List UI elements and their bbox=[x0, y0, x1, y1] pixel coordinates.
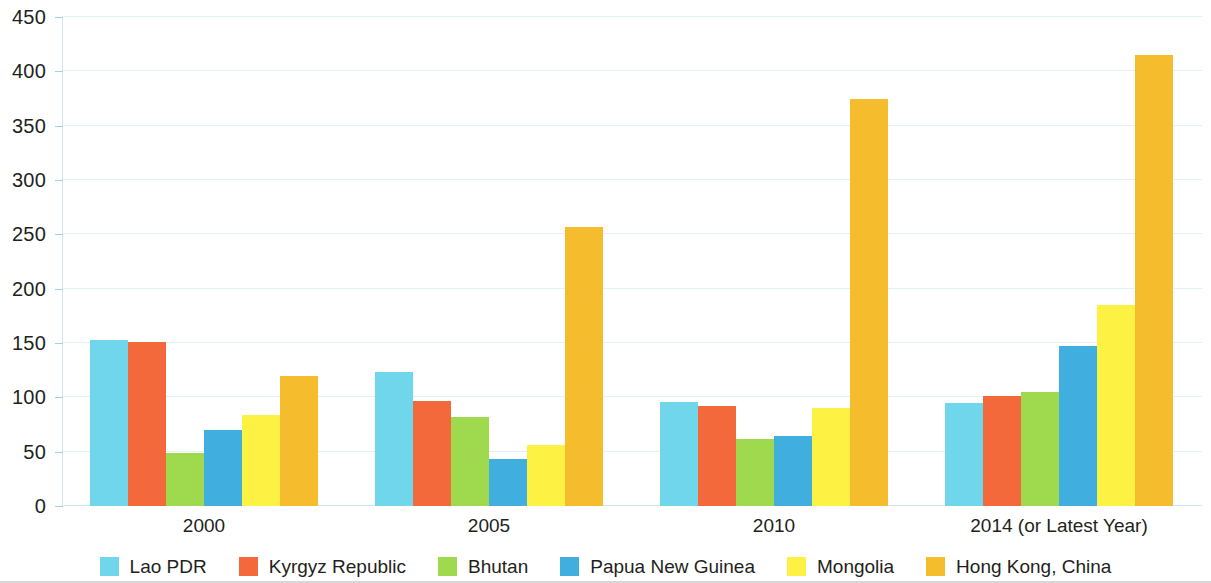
bar bbox=[451, 417, 489, 506]
y-tick-label: 50 bbox=[2, 442, 46, 462]
y-tick-label: 350 bbox=[2, 116, 46, 136]
bar bbox=[660, 402, 698, 506]
y-tick-0 bbox=[55, 506, 63, 507]
x-tick-label: 2014 (or Latest Year) bbox=[909, 515, 1209, 537]
legend-swatch-icon bbox=[239, 557, 258, 576]
bar bbox=[128, 342, 166, 506]
y-tick-label: 450 bbox=[2, 7, 46, 27]
bar bbox=[1097, 305, 1135, 506]
bar-chart: 050100150200250300350400450 200020052010… bbox=[0, 0, 1211, 583]
y-tick-label: 0 bbox=[2, 496, 46, 516]
legend-item[interactable]: Papua New Guinea bbox=[560, 556, 755, 577]
legend-swatch-icon bbox=[438, 557, 457, 576]
bar bbox=[1135, 55, 1173, 506]
legend-label: Papua New Guinea bbox=[590, 556, 755, 577]
y-tick-label: 300 bbox=[2, 170, 46, 190]
legend-label: Mongolia bbox=[817, 556, 894, 577]
legend-item[interactable]: Bhutan bbox=[438, 556, 528, 577]
bar bbox=[413, 401, 451, 506]
bar-group bbox=[945, 17, 1173, 506]
bar-group bbox=[660, 17, 888, 506]
x-tick-label: 2000 bbox=[54, 515, 354, 537]
bar-group bbox=[90, 17, 318, 506]
legend-swatch-icon bbox=[787, 557, 806, 576]
bar bbox=[90, 340, 128, 506]
bar bbox=[204, 430, 242, 506]
bar bbox=[489, 459, 527, 506]
legend-item[interactable]: Hong Kong, China bbox=[926, 556, 1111, 577]
bar bbox=[812, 408, 850, 506]
bar bbox=[698, 406, 736, 506]
bar bbox=[166, 453, 204, 506]
bar bbox=[736, 439, 774, 506]
legend-label: Kyrgyz Republic bbox=[269, 556, 406, 577]
legend-label: Bhutan bbox=[468, 556, 528, 577]
bar bbox=[527, 445, 565, 506]
y-tick-label: 250 bbox=[2, 224, 46, 244]
bar bbox=[565, 227, 603, 506]
bar bbox=[280, 376, 318, 506]
legend-swatch-icon bbox=[926, 557, 945, 576]
bar-group bbox=[375, 17, 603, 506]
x-tick-label: 2005 bbox=[339, 515, 639, 537]
bar bbox=[850, 99, 888, 507]
legend-label: Hong Kong, China bbox=[956, 556, 1111, 577]
y-tick-label: 200 bbox=[2, 279, 46, 299]
y-tick-label: 150 bbox=[2, 333, 46, 353]
bar bbox=[242, 415, 280, 506]
chart-legend: Lao PDRKyrgyz RepublicBhutanPapua New Gu… bbox=[0, 556, 1211, 577]
bar bbox=[945, 403, 983, 506]
bar bbox=[1021, 392, 1059, 506]
bar bbox=[1059, 346, 1097, 506]
bar-groups bbox=[62, 17, 1202, 506]
bar bbox=[983, 396, 1021, 506]
bar bbox=[774, 436, 812, 506]
y-tick-label: 100 bbox=[2, 387, 46, 407]
legend-swatch-icon bbox=[560, 557, 579, 576]
y-tick-label: 400 bbox=[2, 61, 46, 81]
bar bbox=[375, 372, 413, 506]
legend-swatch-icon bbox=[100, 557, 119, 576]
legend-item[interactable]: Lao PDR bbox=[100, 556, 207, 577]
x-tick-label: 2010 bbox=[624, 515, 924, 537]
legend-item[interactable]: Mongolia bbox=[787, 556, 894, 577]
legend-item[interactable]: Kyrgyz Republic bbox=[239, 556, 406, 577]
legend-label: Lao PDR bbox=[130, 556, 207, 577]
